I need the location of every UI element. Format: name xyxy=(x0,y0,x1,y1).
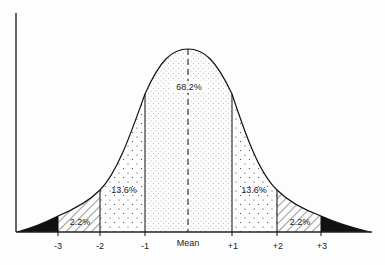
tick-plus-3: +3 xyxy=(317,241,327,251)
tick-mean: Mean xyxy=(177,238,200,248)
tick-minus-3: -3 xyxy=(54,241,62,251)
region-right-mid xyxy=(232,0,277,232)
tick-plus-2: +2 xyxy=(273,241,283,251)
tick-plus-1: +1 xyxy=(228,241,238,251)
region-right-outer xyxy=(277,0,321,232)
region-left-mid xyxy=(100,0,145,232)
region-left-outer xyxy=(58,0,100,232)
label-right-mid: 13.6% xyxy=(241,185,267,195)
region-left-tail xyxy=(17,0,58,232)
label-left-outer: 2.2% xyxy=(70,217,91,227)
bell-curve-graphic: 68.2% 13.6% 13.6% 2.2% 2.2% -3 -2 -1 Mea… xyxy=(0,0,385,265)
normal-distribution-diagram: 68.2% 13.6% 13.6% 2.2% 2.2% -3 -2 -1 Mea… xyxy=(0,0,385,265)
label-right-outer: 2.2% xyxy=(290,217,311,227)
tick-minus-2: -2 xyxy=(96,241,104,251)
tick-minus-1: -1 xyxy=(141,241,149,251)
label-left-mid: 13.6% xyxy=(111,185,137,195)
region-center xyxy=(145,0,232,232)
label-center: 68.2% xyxy=(176,82,202,92)
region-right-tail xyxy=(321,0,371,232)
